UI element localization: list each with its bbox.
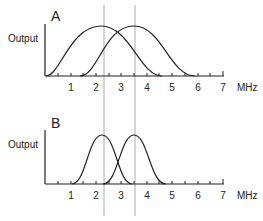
panel-b-xunit: MHz: [237, 190, 258, 201]
panel-b-ticks: [58, 179, 223, 184]
panel-a-ylabel: Output: [8, 33, 38, 44]
panel-b-tick-labels: 1 2 3 4 5 6 7: [68, 190, 226, 201]
svg-text:2: 2: [93, 82, 99, 93]
svg-text:6: 6: [195, 82, 201, 93]
panel-b: B Output 1 2 3 4 5 6 7 MHz: [8, 115, 258, 201]
svg-text:3: 3: [118, 190, 124, 201]
svg-text:4: 4: [144, 82, 150, 93]
panel-a: A Output 1 2 3 4 5 6 7 MHz: [8, 8, 258, 93]
svg-text:3: 3: [118, 82, 124, 93]
svg-text:7: 7: [220, 190, 226, 201]
svg-text:4: 4: [144, 190, 150, 201]
panel-a-tick-labels: 1 2 3 4 5 6 7: [68, 82, 226, 93]
svg-text:1: 1: [68, 82, 74, 93]
svg-text:5: 5: [169, 190, 175, 201]
svg-text:1: 1: [68, 190, 74, 201]
panel-a-curve-2: [80, 26, 195, 76]
svg-text:5: 5: [169, 82, 175, 93]
panel-a-xunit: MHz: [237, 82, 258, 93]
panel-b-ylabel: Output: [8, 139, 38, 150]
svg-text:7: 7: [220, 82, 226, 93]
panel-a-letter: A: [51, 8, 61, 24]
svg-text:2: 2: [93, 190, 99, 201]
panel-b-letter: B: [51, 115, 60, 131]
panel-b-curve-1: [72, 135, 132, 184]
figure: A Output 1 2 3 4 5 6 7 MHz B Output: [0, 0, 263, 221]
svg-text:6: 6: [195, 190, 201, 201]
